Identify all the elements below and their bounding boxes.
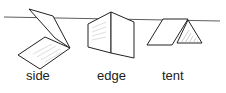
- label-tent: tent: [162, 68, 184, 84]
- edge-left-panel: [88, 12, 111, 53]
- label-side: side: [26, 68, 50, 84]
- tent-figure: [147, 19, 202, 45]
- label-edge: edge: [97, 68, 126, 84]
- edge-right-panel: [111, 12, 134, 58]
